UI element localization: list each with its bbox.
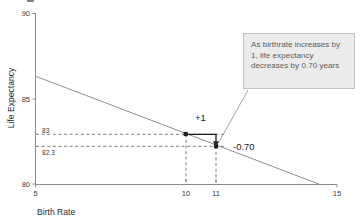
y-axis-title: Life Expectancy xyxy=(6,67,16,128)
data-point-10-83 xyxy=(184,132,188,136)
x-tick-label-5: 5 xyxy=(33,189,37,198)
x-axis-title: Birth Rate xyxy=(37,207,75,217)
callout-leader-line xyxy=(219,90,248,142)
rise-label-minus-070: -0.70 xyxy=(233,141,255,152)
x-tick-label-10: 10 xyxy=(182,189,190,198)
y-tick-label-90: 90 xyxy=(22,9,30,18)
regression-line xyxy=(36,76,321,184)
guide-label-82-3: 82.3 xyxy=(42,149,55,156)
chart-canvas: 90 85 80 5 10 11 15 Birth Rate Life Expe… xyxy=(0,0,362,224)
y-tick-label-85: 85 xyxy=(22,95,30,104)
x-tick-label-15: 15 xyxy=(333,189,341,198)
callout-box: As birthrate increases by 1, life expect… xyxy=(243,33,355,89)
guide-label-83: 83 xyxy=(42,127,50,134)
y-tick-label-80: 80 xyxy=(22,180,30,189)
data-point-11-82-3 xyxy=(214,144,218,148)
run-label-plus-one: +1 xyxy=(195,112,206,123)
x-tick-label-11: 11 xyxy=(212,189,220,198)
